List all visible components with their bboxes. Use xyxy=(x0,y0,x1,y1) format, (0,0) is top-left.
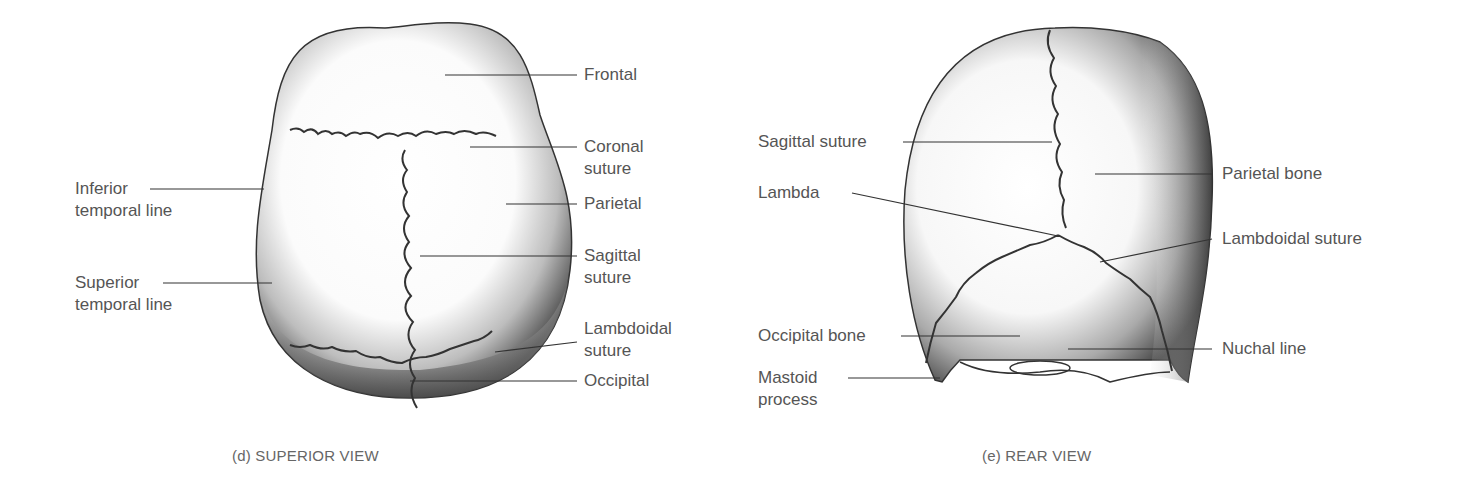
label-frontal: Frontal xyxy=(584,64,637,86)
label-lambda: Lambda xyxy=(758,182,819,204)
label-parietal-bone: Parietal bone xyxy=(1222,163,1322,185)
label-parietal: Parietal xyxy=(584,193,642,215)
label-coronal-suture: Coronal suture xyxy=(584,136,644,180)
label-nuchal-line: Nuchal line xyxy=(1222,338,1306,360)
label-superior-temporal-line: Superior temporal line xyxy=(75,272,172,316)
caption-rear-view: (e) REAR VIEW xyxy=(982,447,1091,464)
caption-superior-view: (d) SUPERIOR VIEW xyxy=(232,447,379,464)
label-lambdoidal-suture: Lambdoidal suture xyxy=(584,318,672,362)
label-rear-lambdoidal-suture: Lambdoidal suture xyxy=(1222,228,1362,250)
label-rear-sagittal-suture: Sagittal suture xyxy=(758,131,867,153)
rear-view-skull xyxy=(904,28,1212,382)
label-occipital-bone: Occipital bone xyxy=(758,325,866,347)
label-inferior-temporal-line: Inferior temporal line xyxy=(75,178,172,222)
label-sagittal-suture: Sagittal suture xyxy=(584,245,641,289)
label-mastoid-process: Mastoid process xyxy=(758,367,818,411)
label-occipital: Occipital xyxy=(584,370,649,392)
superior-view-skull xyxy=(256,23,571,408)
